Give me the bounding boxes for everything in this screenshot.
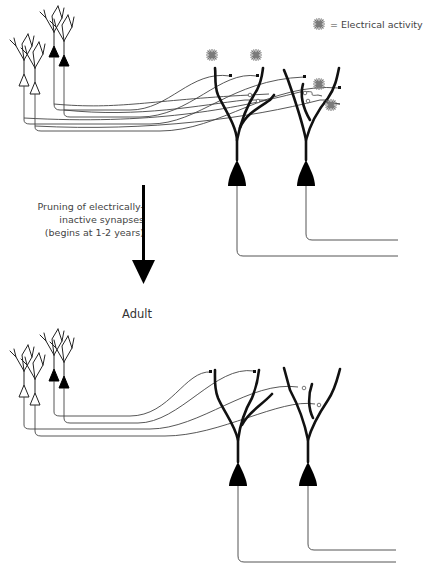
electrical-activity-icon [325,99,337,111]
electrical-activity-icon [250,49,262,61]
active-synapse [338,86,341,89]
adult-panel [10,329,396,562]
synapse [302,386,306,390]
axon [54,372,211,416]
inactive-synapse [248,93,252,97]
postsynaptic-neuron-2 [284,368,396,550]
axon [64,66,257,117]
active-synapse [303,75,306,78]
synapse [317,403,321,407]
axon [64,371,254,423]
axon [54,57,230,110]
postsynaptic-neuron-1 [215,370,396,562]
electrical-activity-icon [313,78,325,90]
down-arrow-icon [132,185,155,284]
active-synapse [229,74,232,77]
inactive-synapse [303,91,307,95]
star-burst-icon [313,18,325,30]
active-synapse [253,370,256,373]
postsynaptic-neuron-2 [284,68,398,240]
infant-panel [10,6,398,256]
inactive-synapse [256,99,260,103]
inactive-synapse [306,99,310,103]
active-synapse [256,74,259,77]
active-synapse [209,370,212,373]
axon [35,403,315,436]
electrical-activity-icon [206,49,218,61]
axon [54,94,269,106]
